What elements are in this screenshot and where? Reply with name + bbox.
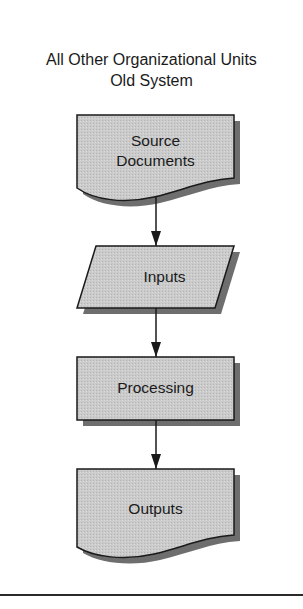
label-outputs: Outputs: [77, 499, 234, 519]
arrow-processing-to-outputs: [151, 420, 161, 469]
label-processing: Processing: [77, 378, 234, 398]
label-source: Source: [77, 131, 234, 151]
divider-line: [0, 594, 303, 596]
label-documents: Documents: [77, 151, 234, 171]
arrow-inputs-to-processing: [151, 308, 161, 357]
label-inputs: Inputs: [86, 267, 243, 287]
